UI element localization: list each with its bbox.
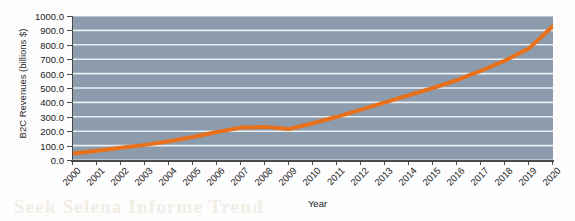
x-tick-mark [120, 160, 121, 165]
x-tick-label-text: 2006 [204, 165, 227, 188]
y-tick-label: 200.0 [40, 126, 64, 137]
x-tick-label-text: 2001 [84, 165, 107, 188]
x-tick-label-text: 2019 [516, 165, 539, 188]
x-tick-mark [288, 160, 289, 165]
y-tick-label: 500.0 [40, 83, 64, 94]
x-tick-mark [336, 160, 337, 165]
x-tick-label-text: 2016 [444, 165, 467, 188]
x-tick-label-text: 2005 [180, 165, 203, 188]
x-tick-mark [192, 160, 193, 165]
x-tick-label-text: 2010 [300, 165, 323, 188]
x-tick-label-text: 2017 [468, 165, 491, 188]
y-tick-label: 600.0 [40, 68, 64, 79]
y-axis-tick-labels: 0.0100.0200.0300.0400.0500.0600.0700.080… [0, 0, 72, 221]
x-tick-mark [216, 160, 217, 165]
x-tick-mark [72, 160, 73, 165]
x-tick-label-text: 2013 [372, 165, 395, 188]
x-tick-mark [144, 160, 145, 165]
chart-figure: Seek Selena Informe Trend B2C Revenues (… [0, 0, 575, 221]
x-tick-label: 2020 [555, 150, 575, 173]
x-tick-label-text: 2002 [108, 165, 131, 188]
x-tick-mark [480, 160, 481, 165]
x-tick-label-text: 2020 [540, 165, 563, 188]
y-tick-label: 1000.0 [35, 11, 64, 22]
x-tick-mark [360, 160, 361, 165]
x-tick-label-text: 2011 [325, 165, 347, 187]
x-tick-mark [312, 160, 313, 165]
x-tick-mark [504, 160, 505, 165]
x-tick-label-text: 2014 [396, 165, 419, 188]
x-tick-label-text: 2007 [228, 165, 251, 188]
x-tick-mark [240, 160, 241, 165]
y-tick-label: 300.0 [40, 111, 64, 122]
x-tick-mark [408, 160, 409, 165]
x-tick-label-text: 2009 [276, 165, 299, 188]
x-tick-mark [96, 160, 97, 165]
plot-svg [73, 16, 553, 160]
y-tick-label: 0.0 [51, 155, 64, 166]
x-tick-mark [264, 160, 265, 165]
y-tick-label: 100.0 [40, 140, 64, 151]
x-tick-mark [528, 160, 529, 165]
y-tick-label: 800.0 [40, 39, 64, 50]
x-tick-mark [456, 160, 457, 165]
plot-area [72, 16, 553, 160]
x-tick-label-text: 2018 [492, 165, 515, 188]
x-tick-label-text: 2004 [156, 165, 179, 188]
gridlines [73, 16, 553, 160]
x-tick-label-text: 2015 [420, 165, 443, 188]
x-tick-label-text: 2012 [348, 165, 371, 188]
x-tick-mark [168, 160, 169, 165]
x-tick-mark [384, 160, 385, 165]
x-tick-label-text: 2003 [132, 165, 155, 188]
x-axis-title: Year [0, 198, 575, 209]
y-tick-label: 700.0 [40, 54, 64, 65]
y-tick-label: 900.0 [40, 25, 64, 36]
x-tick-mark [552, 160, 553, 165]
y-tick-label: 400.0 [40, 97, 64, 108]
x-tick-label-text: 2008 [252, 165, 275, 188]
x-tick-mark [432, 160, 433, 165]
